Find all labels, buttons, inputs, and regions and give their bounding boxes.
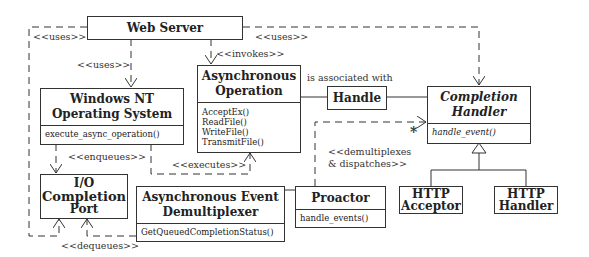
io-completion-port-title: I/O Completion Port: [41, 175, 127, 218]
completion-handler-operations: handle_event(): [428, 123, 530, 140]
class-handle[interactable]: Handle: [327, 86, 387, 110]
demux-title: Asynchronous Event Demultiplexer: [137, 187, 284, 223]
label-uses-right: <<uses>>: [255, 31, 308, 42]
demux-operations: GetQueuedCompletionStatus(): [137, 223, 284, 240]
class-async-event-demultiplexer[interactable]: Asynchronous Event Demultiplexer GetQueu…: [136, 186, 285, 242]
io-port-title-line3: Port: [70, 203, 99, 216]
async-operation-title-line1: Asynchronous: [202, 69, 296, 84]
class-windows-nt[interactable]: Windows NT Operating System execute_asyn…: [40, 88, 184, 145]
dequeues-dependency: [87, 219, 136, 236]
generalization-triangle: [472, 143, 486, 153]
multiplicity-star: *: [410, 124, 417, 140]
operation-readfile: ReadFile(): [202, 117, 296, 127]
windows-nt-title-line2: Operating System: [52, 107, 172, 122]
completion-handler-title-line2: Handler: [452, 105, 507, 120]
operation-execute-async: execute_async_operation(): [45, 129, 179, 139]
label-invokes: <<invokes>>: [216, 48, 284, 59]
demux-title-line2: Demultiplexer: [163, 205, 259, 220]
class-http-handler[interactable]: HTTP Handler: [494, 186, 558, 214]
class-proactor[interactable]: Proactor handle_events(): [295, 186, 386, 228]
class-io-completion-port[interactable]: I/O Completion Port: [40, 174, 128, 219]
operation-acceptex: AcceptEx(): [202, 107, 296, 117]
demux-title-line1: Asynchronous Event: [142, 190, 279, 205]
http-acceptor-title: HTTP Acceptor: [400, 187, 462, 213]
operation-transmitfile: TransmitFile(): [202, 137, 296, 147]
proactor-operations: handle_events(): [296, 209, 385, 226]
label-dispatches: & dispatches>>: [328, 158, 407, 169]
label-demultiplexes: <<demultiplexes: [328, 146, 411, 157]
async-operation-title-line2: Operation: [215, 84, 282, 99]
async-operation-title: Asynchronous Operation: [198, 66, 300, 102]
async-operation-operations: AcceptEx() ReadFile() WriteFile() Transm…: [198, 102, 300, 150]
label-associated: is associated with: [307, 72, 393, 83]
web-server-title: Web Server: [88, 17, 242, 39]
handle-title: Handle: [328, 87, 386, 109]
class-web-server[interactable]: Web Server: [87, 16, 243, 40]
class-http-acceptor[interactable]: HTTP Acceptor: [399, 186, 463, 214]
windows-nt-operations: execute_async_operation(): [41, 125, 183, 142]
operation-get-queued-completion-status: GetQueuedCompletionStatus(): [141, 227, 280, 237]
proactor-title: Proactor: [296, 187, 385, 209]
operation-handle-event: handle_event(): [432, 127, 526, 137]
operation-handle-events: handle_events(): [300, 213, 381, 223]
http-handler-title: HTTP Handler: [495, 187, 557, 213]
windows-nt-title: Windows NT Operating System: [41, 89, 183, 125]
completion-handler-title-line1: Completion: [440, 90, 518, 105]
label-uses-left: <<uses>>: [33, 31, 86, 42]
label-dequeues: <<dequeues>>: [61, 240, 139, 251]
http-handler-title-line2: Handler: [499, 200, 554, 212]
label-enqueues: <<enqueues>>: [68, 151, 146, 162]
windows-nt-title-line1: Windows NT: [70, 92, 154, 107]
label-uses-nt: <<uses>>: [77, 59, 130, 70]
operation-writefile: WriteFile(): [202, 127, 296, 137]
http-acceptor-title-line2: Acceptor: [401, 200, 461, 212]
class-completion-handler[interactable]: Completion Handler handle_event(): [427, 86, 531, 144]
completion-handler-title: Completion Handler: [428, 87, 530, 123]
label-executes: <<executes>>: [172, 159, 246, 170]
class-async-operation[interactable]: Asynchronous Operation AcceptEx() ReadFi…: [197, 65, 301, 153]
